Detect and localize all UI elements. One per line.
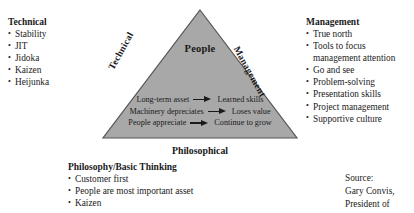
relation-to: Continue to grow [214, 117, 271, 129]
source-attribution: Source: Gary Convis, President of [345, 172, 395, 212]
list-item: Kaizen [68, 197, 193, 209]
management-list: True north Tools to focus management att… [306, 28, 395, 125]
arrow-right-icon [208, 107, 228, 115]
list-item: Tools to focus [306, 40, 395, 52]
list-item: Project management [306, 101, 395, 113]
source-line: Gary Convis, [345, 185, 395, 198]
list-item: People are most important asset [68, 185, 193, 197]
relation-rows: Long-term asset Learned skills Machinery… [100, 94, 300, 129]
philosophy-heading: Philosophy/Basic Thinking [68, 161, 193, 173]
relation-row: Machinery depreciates Loses value [100, 106, 300, 118]
relation-row: Long-term asset Learned skills [100, 94, 300, 106]
technical-list: Stability JIT Jidoka Kaizen Heijunka [8, 28, 49, 88]
list-item: Problem-solving [306, 76, 395, 88]
triangle-edge-label-philosophical: Philosophical [100, 145, 300, 156]
source-line: President of [345, 198, 395, 211]
list-item: Jidoka [8, 52, 49, 64]
relation-from: Long-term asset [136, 94, 189, 106]
arrow-right-icon [190, 119, 210, 127]
list-item: Kaizen [8, 64, 49, 76]
philosophy-column: Philosophy/Basic Thinking Customer first… [68, 161, 193, 209]
list-item: Presentation skills [306, 88, 395, 100]
relation-to: Loses value [232, 106, 271, 118]
list-item: JIT [8, 40, 49, 52]
relation-row: People appreciate Continue to grow [100, 117, 300, 129]
list-item: Customer first [68, 173, 193, 185]
relation-from: Machinery depreciates [129, 106, 203, 118]
list-item-continuation: management attention [306, 52, 395, 64]
philosophy-list: Customer first People are most important… [68, 173, 193, 209]
list-item: Go and see [306, 64, 395, 76]
triangle-diagram: People Technical Management Long-term as… [100, 8, 300, 142]
relation-from: People appreciate [128, 117, 186, 129]
arrow-right-icon [193, 96, 213, 104]
list-item: Supportive culture [306, 113, 395, 125]
list-item: Heijunka [8, 76, 49, 88]
technical-heading: Technical [8, 16, 49, 28]
management-column: Management True north Tools to focus man… [306, 16, 395, 125]
relation-to: Learned skills [217, 94, 263, 106]
source-line: Source: [345, 172, 395, 185]
list-item: True north [306, 28, 395, 40]
management-heading: Management [306, 16, 395, 28]
list-item: Stability [8, 28, 49, 40]
technical-column: Technical Stability JIT Jidoka Kaizen He… [8, 16, 49, 88]
